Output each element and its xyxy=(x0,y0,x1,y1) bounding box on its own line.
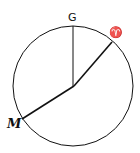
radius-to-aries xyxy=(74,42,112,86)
label-g: G xyxy=(68,12,77,23)
label-aries: ♈ xyxy=(109,27,123,38)
label-m: M xyxy=(7,117,21,130)
radius-to-m xyxy=(22,86,74,119)
